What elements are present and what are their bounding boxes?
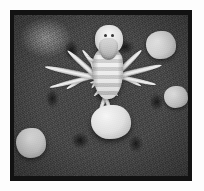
figure-page — [0, 0, 204, 191]
photograph — [14, 15, 188, 176]
spider-eye-left — [104, 34, 107, 37]
camel-spider — [14, 15, 188, 176]
spider-eye-right — [111, 34, 114, 37]
pebble-center — [91, 105, 131, 139]
figure-frame — [10, 10, 192, 181]
